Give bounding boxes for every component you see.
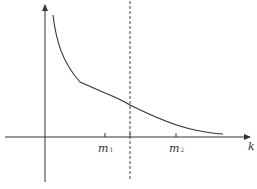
tick-label-m1: m1 xyxy=(98,142,113,155)
tick-label-m2: m2 xyxy=(169,142,184,155)
decreasing-curve xyxy=(53,15,223,134)
x-axis-label: k xyxy=(248,140,255,153)
diagram-canvas: m1 m2 k xyxy=(0,0,257,189)
